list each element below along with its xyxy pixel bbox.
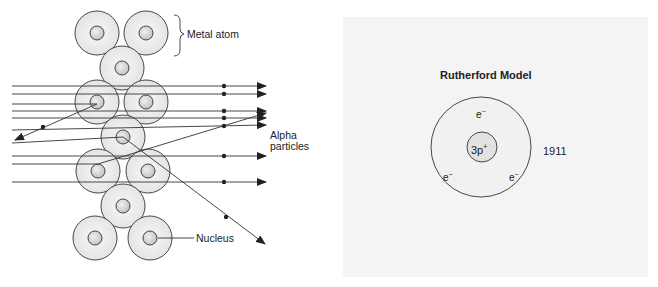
nucleus-text: 3p+ bbox=[471, 141, 487, 156]
atom-nucleus bbox=[141, 164, 155, 178]
metal-atoms bbox=[73, 11, 172, 260]
atom-nucleus bbox=[143, 231, 157, 245]
electron-charge: − bbox=[449, 171, 453, 178]
rutherford-svg bbox=[343, 17, 648, 277]
atom-nucleus bbox=[139, 95, 153, 109]
year-label: 1911 bbox=[543, 145, 567, 157]
rutherford-model-card: Rutherford Model 3p+ e− e− e− 1911 bbox=[343, 17, 648, 277]
alpha-label-line2: particles bbox=[270, 140, 309, 152]
electron-bottom-left: e− bbox=[443, 169, 453, 184]
atom-nucleus bbox=[90, 95, 104, 109]
electron-bottom-right: e− bbox=[509, 169, 519, 184]
atom-nucleus bbox=[90, 26, 104, 40]
electron-charge: − bbox=[482, 108, 486, 115]
nucleus-protons: 3p bbox=[471, 144, 483, 156]
alpha-scattering-diagram: Metal atom Alpha particles Nucleus bbox=[0, 0, 330, 287]
electron-top: e− bbox=[476, 106, 486, 121]
atom-nucleus bbox=[115, 61, 129, 75]
electron-charge: − bbox=[515, 171, 519, 178]
atom-nucleus bbox=[88, 231, 102, 245]
metal-atom-bracket bbox=[174, 15, 184, 56]
atom-nucleus bbox=[116, 199, 130, 213]
atom-nucleus bbox=[139, 26, 153, 40]
nucleus-charge: + bbox=[483, 143, 487, 150]
nucleus-label: Nucleus bbox=[196, 232, 234, 244]
metal-atom-label: Metal atom bbox=[187, 28, 239, 40]
atom-nucleus bbox=[91, 164, 105, 178]
